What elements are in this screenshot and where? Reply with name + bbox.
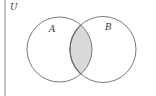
universe-label: U xyxy=(10,2,18,12)
venn-svg: U A B xyxy=(0,0,156,96)
set-a-label: A xyxy=(48,24,56,34)
venn-diagram: U A B xyxy=(0,0,156,96)
set-b-label: B xyxy=(104,22,112,32)
